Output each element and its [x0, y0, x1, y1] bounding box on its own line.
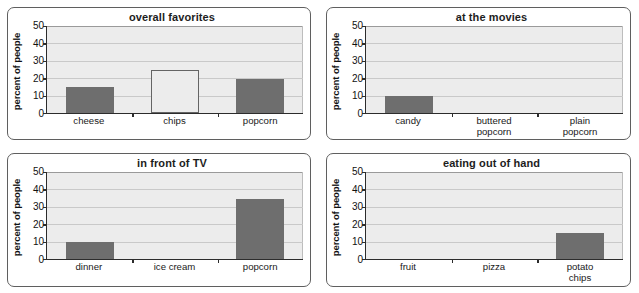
- chart-cell-at-the-movies: at the moviespercent of people0102030405…: [319, 0, 639, 146]
- x-axis-label: fruit: [400, 262, 416, 273]
- plot-area-eating-out-of-hand: [365, 172, 623, 260]
- plot-top-edge: [47, 26, 303, 27]
- y-axis-tickmark: [43, 96, 47, 97]
- y-axis-title-eating-out-of-hand: percent of people: [328, 174, 344, 260]
- y-axis-tickmark: [43, 207, 47, 208]
- plot-canvas: [46, 26, 303, 114]
- y-axis-tickmark: [362, 78, 366, 79]
- bar-at-the-movies-0: [385, 96, 433, 113]
- plot-top-edge: [366, 26, 623, 27]
- chart-panel-in-front-of-tv: in front of TVpercent of people010203040…: [7, 153, 311, 287]
- y-axis-tickmark: [362, 259, 366, 260]
- x-axis-label: plain popcorn: [563, 116, 598, 137]
- chart-title-in-front-of-tv: in front of TV: [8, 157, 310, 169]
- x-axis-labels-in-front-of-tv: dinnerice creampopcorn: [46, 262, 303, 290]
- y-axis-tickmark: [43, 259, 47, 260]
- chart-title-overall-favorites: overall favorites: [8, 11, 310, 23]
- bar-in-front-of-tv-0: [66, 242, 114, 259]
- x-axis-labels-overall-favorites: cheesechipspopcorn: [46, 116, 303, 144]
- y-axis-tickmark: [43, 61, 47, 62]
- gridline: [366, 189, 623, 190]
- gridline: [47, 43, 303, 44]
- gridline: [47, 61, 303, 62]
- x-axis-label: potato chips: [559, 262, 602, 283]
- x-axis-label: dinner: [75, 262, 102, 273]
- y-axis-tickmark: [43, 113, 47, 114]
- bar-overall-favorites-1: [151, 70, 199, 113]
- y-tick-labels-at-the-movies: 01020304050: [343, 26, 363, 114]
- chart-title-eating-out-of-hand: eating out of hand: [327, 157, 630, 169]
- y-axis-title-overall-favorites: percent of people: [9, 28, 25, 114]
- y-axis-tickmark: [43, 189, 47, 190]
- y-tick-labels-overall-favorites: 01020304050: [24, 26, 44, 114]
- y-tick-labels-in-front-of-tv: 01020304050: [24, 172, 44, 260]
- y-axis-title-text: percent of people: [12, 32, 23, 109]
- plot-canvas: [365, 26, 623, 114]
- x-axis-label: popcorn: [243, 262, 278, 273]
- bar-overall-favorites-0: [66, 87, 114, 113]
- y-axis-tickmark: [43, 242, 47, 243]
- chart-panel-at-the-movies: at the moviespercent of people0102030405…: [326, 7, 631, 140]
- x-axis-label: pizza: [483, 262, 505, 273]
- gridline: [366, 207, 623, 208]
- y-axis-tickmark: [362, 61, 366, 62]
- y-axis-tickmark: [43, 224, 47, 225]
- y-axis-title-text: percent of people: [331, 178, 342, 255]
- plot-canvas: [46, 172, 303, 260]
- plot-area-at-the-movies: [365, 26, 623, 114]
- y-axis-tickmark: [362, 189, 366, 190]
- y-axis-tickmark: [362, 43, 366, 44]
- bar-in-front-of-tv-2: [236, 199, 284, 259]
- x-axis-label: popcorn: [243, 116, 278, 127]
- bar-eating-out-of-hand-2: [556, 233, 604, 259]
- chart-cell-overall-favorites: overall favoritespercent of people010203…: [0, 0, 319, 146]
- plot-canvas: [365, 172, 623, 260]
- x-axis-label: candy: [395, 116, 421, 127]
- x-axis-label: cheese: [73, 116, 104, 127]
- y-axis-tickmark: [362, 207, 366, 208]
- x-axis-labels-eating-out-of-hand: fruitpizzapotato chips: [365, 262, 623, 290]
- plot-area-in-front-of-tv: [46, 172, 303, 260]
- plot-top-edge: [47, 172, 303, 173]
- y-axis-tickmark: [43, 26, 47, 27]
- gridline: [366, 78, 623, 79]
- y-axis-tickmark: [43, 78, 47, 79]
- y-axis-tickmark: [362, 172, 366, 173]
- x-axis-label: chips: [163, 116, 185, 127]
- gridline: [366, 224, 623, 225]
- y-axis-tickmark: [362, 113, 366, 114]
- chart-grid: overall favoritespercent of people010203…: [0, 0, 639, 293]
- y-axis-tickmark: [362, 26, 366, 27]
- y-axis-title-text: percent of people: [331, 32, 342, 109]
- y-axis-tickmark: [43, 172, 47, 173]
- x-axis-label: buttered popcorn: [476, 116, 511, 137]
- chart-panel-eating-out-of-hand: eating out of handpercent of people01020…: [326, 153, 631, 287]
- plot-area-overall-favorites: [46, 26, 303, 114]
- y-axis-tickmark: [362, 242, 366, 243]
- y-axis-title-in-front-of-tv: percent of people: [9, 174, 25, 260]
- plot-right-edge: [622, 26, 623, 113]
- y-axis-tickmark: [362, 224, 366, 225]
- gridline: [366, 43, 623, 44]
- y-axis-tickmark: [362, 96, 366, 97]
- plot-right-edge: [302, 172, 303, 259]
- chart-cell-eating-out-of-hand: eating out of handpercent of people01020…: [319, 146, 639, 293]
- plot-top-edge: [366, 172, 623, 173]
- gridline: [366, 61, 623, 62]
- gridline: [47, 189, 303, 190]
- bar-overall-favorites-2: [236, 79, 284, 113]
- chart-sheet: overall favoritespercent of people010203…: [0, 0, 639, 293]
- chart-cell-in-front-of-tv: in front of TVpercent of people010203040…: [0, 146, 319, 293]
- plot-right-edge: [302, 26, 303, 113]
- y-axis-title-text: percent of people: [12, 178, 23, 255]
- chart-panel-overall-favorites: overall favoritespercent of people010203…: [7, 7, 311, 140]
- chart-title-at-the-movies: at the movies: [327, 11, 630, 23]
- x-axis-labels-at-the-movies: candybuttered popcornplain popcorn: [365, 116, 623, 144]
- x-axis-label: ice cream: [154, 262, 196, 273]
- plot-right-edge: [622, 172, 623, 259]
- y-axis-tickmark: [43, 43, 47, 44]
- y-axis-title-at-the-movies: percent of people: [328, 28, 344, 114]
- y-tick-labels-eating-out-of-hand: 01020304050: [343, 172, 363, 260]
